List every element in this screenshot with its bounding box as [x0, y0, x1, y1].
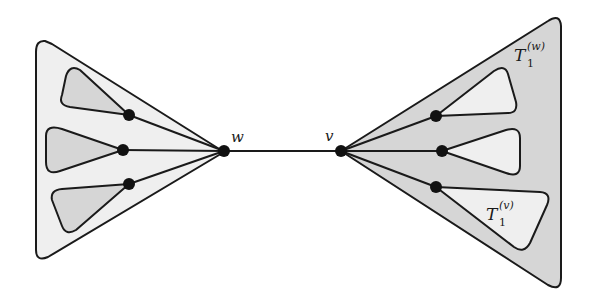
- svg-text:T: T: [514, 45, 527, 65]
- node-left-bottom: [123, 178, 135, 190]
- node-left-top: [123, 109, 135, 121]
- edge-w-left-middle: [123, 150, 224, 151]
- svg-text:1: 1: [527, 57, 534, 70]
- label-v: v: [325, 127, 334, 145]
- node-w: [218, 145, 230, 157]
- node-left-middle: [117, 144, 129, 156]
- svg-text:T: T: [486, 204, 499, 224]
- node-right-bottom: [430, 181, 442, 193]
- tree-diagram: w v T 1 (w) T 1 (v): [0, 0, 594, 306]
- label-w: w: [231, 128, 244, 146]
- svg-text:(v): (v): [499, 199, 514, 212]
- svg-text:(w): (w): [527, 40, 545, 53]
- node-v: [335, 145, 347, 157]
- node-right-top: [430, 110, 442, 122]
- node-right-middle: [436, 145, 448, 157]
- svg-text:1: 1: [499, 216, 506, 229]
